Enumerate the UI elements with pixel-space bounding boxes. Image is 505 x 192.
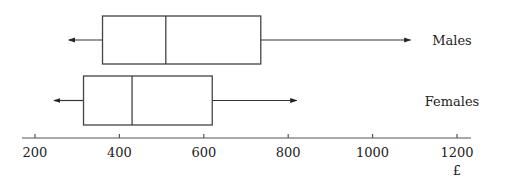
x-tick-label: 600 [191, 145, 216, 160]
x-tick-label: 800 [276, 145, 301, 160]
iqr-box [103, 16, 261, 64]
box-plot-females: Females [54, 76, 479, 125]
x-tick-label: 1000 [356, 145, 389, 160]
iqr-box [84, 76, 213, 125]
box-plot-chart: MalesFemales 20040060080010001200 £ [0, 0, 505, 192]
x-axis-label: £ [453, 163, 461, 178]
x-tick-label: 200 [23, 145, 48, 160]
series-label: Females [425, 94, 480, 109]
box-plot-males: Males [69, 16, 472, 64]
x-tick-label: 1200 [440, 145, 473, 160]
x-tick-label: 400 [107, 145, 132, 160]
series-label: Males [432, 33, 472, 48]
